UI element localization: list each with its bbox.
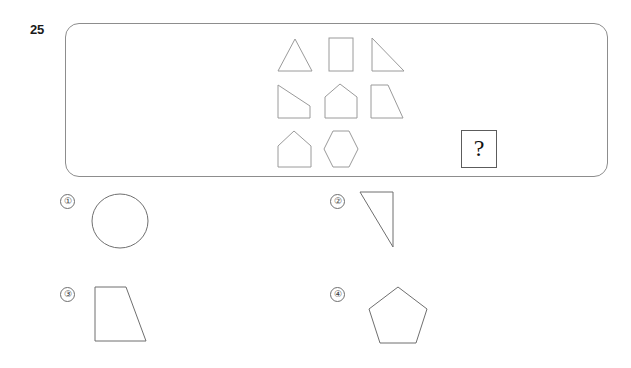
option-figure-circle xyxy=(85,188,155,254)
option-number-4: ④ xyxy=(330,287,345,302)
option-number-3: ③ xyxy=(60,287,75,302)
matrix-cell-hexagon: hexagon xyxy=(319,127,363,171)
question-number: 25 xyxy=(30,22,44,37)
matrix-cell-right-trapezoid-descending: right trapezoid xyxy=(273,80,317,124)
question-mark-box: ? xyxy=(461,130,497,168)
option-figure-right-triangle xyxy=(352,188,422,254)
matrix-cell-pentagon-house-wide: house pentagon xyxy=(273,127,317,171)
matrix-row: triangle rectangle right triangle xyxy=(271,33,411,77)
matrix-row: right trapezoid house pentagon slanted t… xyxy=(271,80,411,124)
matrix-row: house pentagon hexagon ? xyxy=(271,127,411,171)
shape-matrix: triangle rectangle right triangle xyxy=(271,33,411,173)
answer-option-1[interactable]: ① xyxy=(60,188,310,270)
option-figure-pentagon xyxy=(358,281,438,351)
option-number-1: ① xyxy=(60,194,75,209)
matrix-cell-pentagon-house: house pentagon xyxy=(319,80,363,124)
answer-option-2[interactable]: ② xyxy=(330,188,580,270)
answer-option-3[interactable]: ③ xyxy=(60,281,310,363)
matrix-cell-rectangle-portrait: rectangle xyxy=(319,33,363,77)
option-figure-trapezoid xyxy=(82,281,162,351)
stimulus-panel: triangle rectangle right triangle xyxy=(65,23,608,177)
matrix-cell-right-triangle: right triangle xyxy=(365,33,409,77)
question-mark-glyph: ? xyxy=(474,136,485,160)
answer-option-4[interactable]: ④ xyxy=(330,281,580,363)
option-number-2: ② xyxy=(330,194,345,209)
matrix-cell-triangle-isosceles: triangle xyxy=(273,33,317,77)
matrix-cell-question: ? xyxy=(365,127,409,171)
question-page: 25 triangle rectangle xyxy=(0,0,631,368)
matrix-cell-trapezoid-slant-right: slanted trapezoid xyxy=(365,80,409,124)
